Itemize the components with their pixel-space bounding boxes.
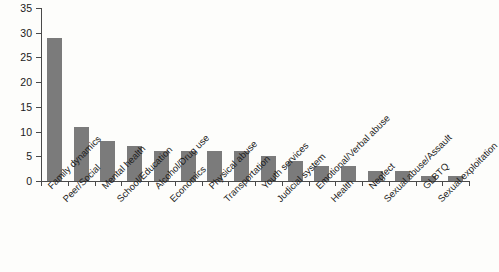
x-axis-category-labels: Family dynamicsPeer/SocialMental healthS… <box>0 182 476 272</box>
bar <box>47 38 62 181</box>
y-axis-tick-label: 30 <box>6 28 32 39</box>
y-axis-tick-label: 20 <box>6 77 32 88</box>
y-axis-tick-label: 5 <box>6 151 32 162</box>
x-axis-category-label: Health <box>329 178 355 204</box>
y-axis-tick-label: 25 <box>6 52 32 63</box>
y-axis-tick-label: 35 <box>6 3 32 14</box>
y-axis-tick-label: 15 <box>6 102 32 113</box>
bar-series <box>41 8 469 181</box>
y-axis-tick-label: 10 <box>6 127 32 138</box>
